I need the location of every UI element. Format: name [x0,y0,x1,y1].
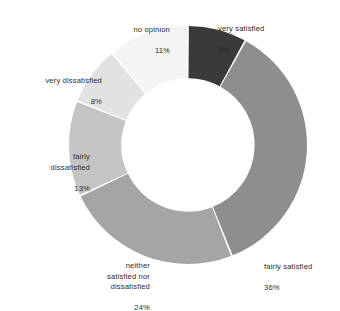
slice-label-text: very dissatisfied [12,76,102,86]
slice-label-percent: 8% [12,97,102,107]
donut-slice [213,41,307,255]
slice-label-percent: 13% [18,184,90,194]
slice-label-percent: 36% [264,283,312,293]
slice-label-text: very satisfied [218,24,264,34]
slice-label-fairly-satisfied: fairly satisfied 36% [264,252,312,304]
slice-label-text: fairly dissatisfied [18,152,90,173]
slice-label-neither-satisfied-nor-dissatisfied: neither satisfied nor dissatisfied 24% [58,251,150,311]
slice-label-text: neither satisfied nor dissatisfied [58,261,150,292]
slice-label-percent: 24% [58,303,150,311]
slice-label-text: fairly satisfied [264,262,312,272]
slice-label-no-opinion: no opinion 11% [88,15,170,67]
slice-label-fairly-dissatisfied: fairly dissatisfied 13% [18,142,90,204]
donut-chart: very satisfied 8% fairly satisfied 36% n… [0,0,340,311]
slice-label-very-dissatisfied: very dissatisfied 8% [12,66,102,118]
slice-label-percent: 11% [88,46,170,56]
slice-label-percent: 8% [218,45,264,55]
slice-label-text: no opinion [88,25,170,35]
slice-label-very-satisfied: very satisfied 8% [218,14,264,66]
